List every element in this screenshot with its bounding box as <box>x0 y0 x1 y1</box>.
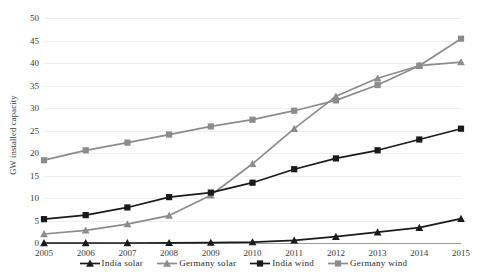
legend-label: India solar <box>102 258 144 268</box>
data-point-marker <box>249 180 255 186</box>
data-point-marker <box>458 126 464 132</box>
y-tick-label: 35 <box>30 81 39 91</box>
y-tick-label: 50 <box>30 13 39 23</box>
legend-item-india-wind[interactable]: India wind <box>250 258 314 268</box>
data-point-marker <box>291 108 297 114</box>
data-point-marker <box>41 157 47 163</box>
x-tick-label: 2008 <box>160 248 178 258</box>
x-tick-label: 2014 <box>410 248 428 258</box>
y-tick-label: 30 <box>30 103 39 113</box>
legend-item-germany-solar[interactable]: Germany solar <box>157 258 236 268</box>
x-tick-label: 2009 <box>202 248 220 258</box>
data-point-marker <box>458 36 464 42</box>
data-point-marker <box>208 190 214 196</box>
data-point-marker <box>166 194 172 200</box>
data-point-marker <box>124 140 130 146</box>
y-tick-label: 10 <box>30 193 39 203</box>
series-india-solar <box>40 215 465 246</box>
data-point-marker <box>416 63 422 69</box>
x-tick-label: 2007 <box>118 248 136 258</box>
legend-label: Germany solar <box>179 258 236 268</box>
data-point-marker <box>249 117 255 123</box>
legend-label: Germany wind <box>350 258 407 268</box>
data-point-marker <box>291 166 297 172</box>
data-point-marker <box>375 147 381 153</box>
data-point-marker <box>165 212 173 219</box>
chart-figure: GW installed capacity 051015202530354045… <box>0 0 487 280</box>
legend-square-icon <box>328 259 348 268</box>
y-tick-label: 25 <box>30 126 39 136</box>
chart-legend: India solarGermany solarIndia windGerman… <box>0 258 487 268</box>
x-tick-label: 2010 <box>244 248 262 258</box>
y-axis-title: GW installed capacity <box>6 60 20 210</box>
y-tick-label: 20 <box>30 148 39 158</box>
y-tick-label: 15 <box>30 171 39 181</box>
legend-triangle-icon <box>157 259 177 268</box>
x-tick-label: 2013 <box>369 248 387 258</box>
data-point-marker <box>83 212 89 218</box>
series-line <box>44 129 461 219</box>
data-point-marker <box>124 204 130 210</box>
y-tick-label: 0 <box>35 238 40 248</box>
data-point-marker <box>375 82 381 88</box>
legend-square-icon <box>250 259 270 268</box>
legend-label: India wind <box>272 258 314 268</box>
data-point-marker <box>416 136 422 142</box>
data-point-marker <box>41 216 47 222</box>
data-point-marker <box>333 155 339 161</box>
y-axis-title-text: GW installed capacity <box>8 95 18 175</box>
data-point-marker <box>83 147 89 153</box>
x-tick-label: 2012 <box>327 248 345 258</box>
data-point-marker <box>257 260 263 266</box>
series-layer <box>44 18 461 243</box>
plot-area: 05101520253035404550 2005200620072008200… <box>44 18 461 243</box>
data-point-marker <box>166 131 172 137</box>
y-tick-label: 45 <box>30 36 39 46</box>
x-tick-label: 2006 <box>77 248 95 258</box>
x-tick-label: 2011 <box>285 248 303 258</box>
legend-item-germany-wind[interactable]: Germany wind <box>328 258 407 268</box>
series-india-wind <box>41 126 464 223</box>
data-point-marker <box>335 260 341 266</box>
series-line <box>44 39 461 161</box>
data-point-marker <box>333 97 339 103</box>
data-point-marker <box>457 215 465 222</box>
legend-triangle-icon <box>80 259 100 268</box>
legend-item-india-solar[interactable]: India solar <box>80 258 144 268</box>
x-tick-label: 2005 <box>35 248 53 258</box>
data-point-marker <box>208 123 214 129</box>
y-tick-label: 5 <box>35 216 40 226</box>
series-line <box>44 62 461 234</box>
x-tick-label: 2015 <box>452 248 470 258</box>
y-tick-label: 40 <box>30 58 39 68</box>
